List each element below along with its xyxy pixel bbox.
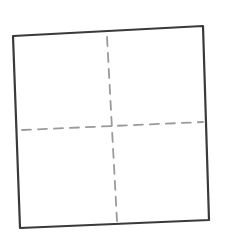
quartered-square-diagram bbox=[0, 0, 227, 241]
vertical-dashed-divider bbox=[107, 37, 117, 221]
square-outline bbox=[13, 26, 209, 228]
